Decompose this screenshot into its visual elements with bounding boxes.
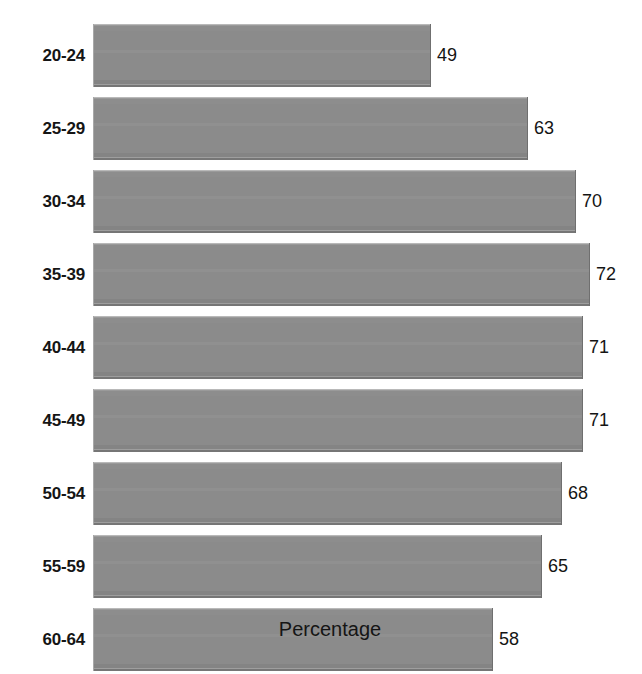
bar-row: 35-3972 xyxy=(0,243,642,306)
bar-value-label: 71 xyxy=(589,389,609,452)
category-label: 20-24 xyxy=(0,24,85,87)
category-label: 40-44 xyxy=(0,316,85,379)
bar-row: 40-4471 xyxy=(0,316,642,379)
bar xyxy=(93,97,528,160)
bar-row: 20-2449 xyxy=(0,24,642,87)
bar xyxy=(93,535,542,598)
bar-value-label: 72 xyxy=(596,243,616,306)
bar xyxy=(93,462,562,525)
bar-row: 55-5965 xyxy=(0,535,642,598)
category-label: 55-59 xyxy=(0,535,85,598)
bar-row: 45-4971 xyxy=(0,389,642,452)
bar xyxy=(93,170,576,233)
bar-value-label: 63 xyxy=(534,97,554,160)
bar-row: 50-5468 xyxy=(0,462,642,525)
horizontal-bar-chart: 20-244925-296330-347035-397240-447145-49… xyxy=(0,0,642,674)
category-label: 50-54 xyxy=(0,462,85,525)
plot-area: 20-244925-296330-347035-397240-447145-49… xyxy=(0,0,642,620)
bar xyxy=(93,316,583,379)
category-label: 25-29 xyxy=(0,97,85,160)
x-axis-title: Percentage xyxy=(0,618,642,641)
bar-value-label: 68 xyxy=(568,462,588,525)
bar-row: 30-3470 xyxy=(0,170,642,233)
category-label: 45-49 xyxy=(0,389,85,452)
category-label: 30-34 xyxy=(0,170,85,233)
bar-value-label: 70 xyxy=(582,170,602,233)
bar-row: 25-2963 xyxy=(0,97,642,160)
bar xyxy=(93,24,431,87)
bar xyxy=(93,389,583,452)
category-label: 35-39 xyxy=(0,243,85,306)
bar-value-label: 65 xyxy=(548,535,568,598)
bar-value-label: 71 xyxy=(589,316,609,379)
bar-value-label: 49 xyxy=(437,24,457,87)
bar xyxy=(93,243,590,306)
